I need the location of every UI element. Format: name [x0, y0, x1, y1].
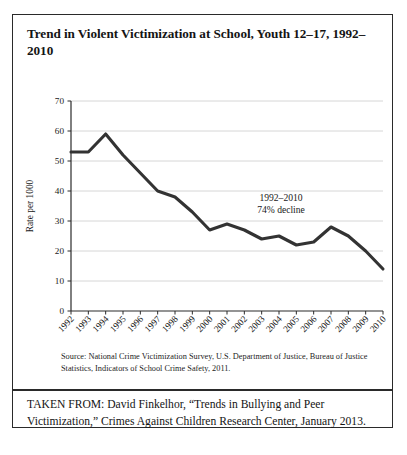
x-tick-label: 2001: [212, 314, 232, 334]
page-title: Trend in Violent Victimization at School…: [27, 25, 379, 60]
x-tick-label: 2009: [351, 314, 371, 334]
x-tick-label: 1992: [56, 314, 76, 334]
annotation-period: 1992–2010: [259, 192, 302, 203]
y-tick-label: 0: [59, 306, 64, 316]
x-tick-label: 2006: [299, 314, 319, 334]
y-tick-label: 60: [55, 126, 65, 136]
x-tick-label: 2008: [333, 314, 353, 334]
line-chart: 010203040506070 199219931994199519961997…: [13, 77, 391, 349]
x-tick-label: 1994: [91, 314, 111, 334]
y-tick-label: 50: [55, 156, 65, 166]
y-tick-label: 70: [55, 96, 65, 106]
gridlines: [71, 101, 383, 281]
section-divider: [13, 389, 392, 391]
y-tick-label: 10: [55, 276, 65, 286]
x-tick-label: 2003: [247, 314, 267, 334]
x-tick-label: 2005: [281, 314, 301, 334]
data-series-line: [71, 134, 383, 269]
chart-plot-container: 010203040506070 199219931994199519961997…: [13, 77, 391, 349]
annotation-decline: 74% decline: [257, 204, 305, 215]
y-tick-label: 20: [55, 246, 65, 256]
x-tick-label: 2010: [368, 314, 388, 334]
y-axis-ticks: 010203040506070: [55, 96, 71, 316]
x-tick-label: 2000: [195, 314, 215, 334]
figure-frame: Trend in Violent Victimization at School…: [12, 14, 393, 428]
x-tick-label: 1996: [125, 314, 145, 334]
x-tick-label: 1997: [143, 314, 163, 334]
x-tick-label: 1995: [108, 314, 128, 334]
y-tick-label: 30: [55, 216, 65, 226]
x-axis-ticks: 1992199319941995199619971998199920002001…: [56, 311, 388, 334]
x-tick-label: 2004: [264, 314, 284, 334]
x-tick-label: 1998: [160, 314, 180, 334]
x-tick-label: 2007: [316, 314, 336, 334]
taken-from-note: TAKEN FROM: David Finkelhor, “Trends in …: [27, 397, 383, 431]
x-tick-label: 1993: [73, 314, 93, 334]
x-tick-label: 2002: [229, 314, 249, 334]
y-axis-label: Rate per 1000: [25, 179, 35, 232]
x-tick-label: 1999: [177, 314, 197, 334]
source-note: Source: National Crime Victimization Sur…: [61, 351, 383, 375]
y-tick-label: 40: [55, 186, 65, 196]
